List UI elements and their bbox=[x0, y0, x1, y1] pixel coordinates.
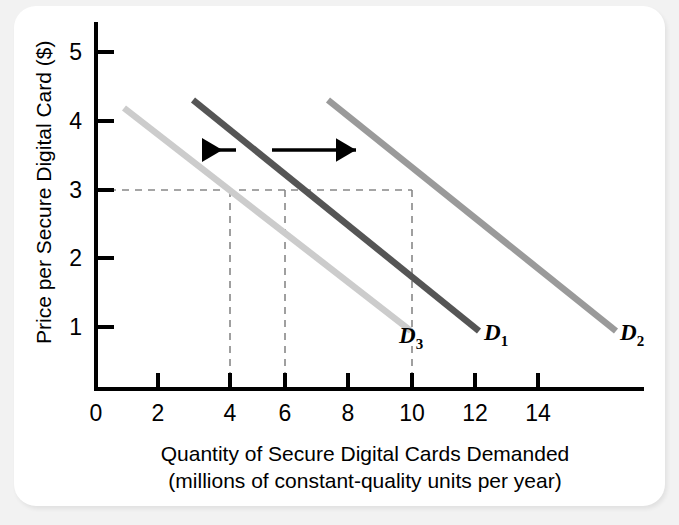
x-tick-label-6: 6 bbox=[265, 400, 305, 427]
curve-label-D2-subscript: 2 bbox=[637, 333, 645, 349]
curve-label-D1-letter: D bbox=[484, 320, 501, 345]
y-axis-title: Price per Secure Digital Card ($) bbox=[32, 44, 56, 344]
x-tick-label-8: 8 bbox=[328, 400, 368, 427]
demand-curve-D3 bbox=[124, 108, 411, 331]
curve-label-D1: D1 bbox=[484, 320, 508, 350]
x-axis-title-line-1: Quantity of Secure Digital Cards Demande… bbox=[95, 440, 635, 467]
x-tick-label-4: 4 bbox=[210, 400, 250, 427]
demand-curve-D1 bbox=[193, 100, 479, 331]
curve-label-D2: D2 bbox=[620, 320, 644, 350]
curve-label-D2-letter: D bbox=[620, 320, 637, 345]
x-axis-title-line-2: (millions of constant-quality units per … bbox=[95, 467, 635, 494]
reference-lines bbox=[96, 190, 412, 389]
curve-label-D1-subscript: 1 bbox=[501, 333, 509, 349]
curve-label-D3-letter: D bbox=[399, 323, 416, 348]
axes bbox=[94, 22, 644, 390]
x-axis-title: Quantity of Secure Digital Cards Demande… bbox=[95, 440, 635, 494]
curve-label-D3: D3 bbox=[399, 323, 423, 353]
x-tick-label-2: 2 bbox=[138, 400, 178, 427]
x-tick-label-0: 0 bbox=[76, 400, 116, 427]
x-tick-label-10: 10 bbox=[392, 400, 432, 427]
curve-label-D3-subscript: 3 bbox=[416, 336, 424, 352]
x-tick-label-14: 14 bbox=[518, 400, 558, 427]
x-tick-label-12: 12 bbox=[455, 400, 495, 427]
